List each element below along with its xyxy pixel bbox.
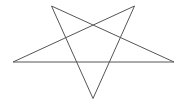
pentagram-star-outline bbox=[13, 6, 174, 99]
pentagram-diagram bbox=[0, 0, 183, 107]
